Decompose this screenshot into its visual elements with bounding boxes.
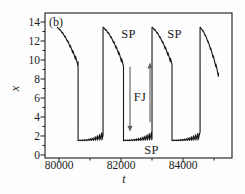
x-axis-label: t xyxy=(122,172,125,187)
annotation-fj-label: FJ xyxy=(134,90,146,105)
annotation-sp-bottom: SP xyxy=(144,142,159,157)
plot-frame xyxy=(45,13,232,158)
panel-label: (b) xyxy=(49,15,63,30)
y-tick-label-8: 8 xyxy=(12,72,40,86)
fj-down-arrow-head xyxy=(127,126,132,132)
y-tick-label-2: 2 xyxy=(12,129,40,143)
y-tick-label-12: 12 xyxy=(12,34,40,48)
annotation-sp-top-1: SP xyxy=(121,26,136,41)
annotation-sp-top-2: SP xyxy=(167,26,182,41)
figure-panel-b: (b) x t 80000820008400002468101214 SPSPS… xyxy=(0,0,245,194)
x-tick-label-82000: 82000 xyxy=(107,159,136,171)
y-tick-label-10: 10 xyxy=(12,53,40,67)
y-tick-label-6: 6 xyxy=(12,91,40,105)
x-tick-label-84000: 84000 xyxy=(169,159,198,171)
y-tick-label-14: 14 xyxy=(12,15,40,29)
y-tick-label-4: 4 xyxy=(12,110,40,124)
data-curve xyxy=(57,27,219,140)
x-tick-label-80000: 80000 xyxy=(45,159,74,171)
y-tick-label-0: 0 xyxy=(12,148,40,162)
